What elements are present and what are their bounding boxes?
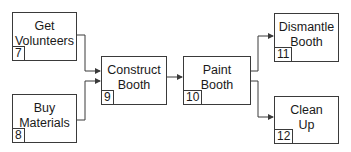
node-id-badge: 10: [183, 90, 202, 105]
edge-8-to-9: [76, 81, 100, 120]
node-id-badge: 12: [274, 129, 293, 144]
node-construct-booth: Construct Booth 9: [101, 56, 167, 105]
node-id-badge: 7: [12, 46, 25, 61]
node-id-badge: 9: [101, 90, 114, 105]
node-clean-up: Clean Up 12: [274, 96, 339, 144]
node-id-badge: 8: [12, 128, 25, 143]
node-buy-materials: Buy Materials 8: [12, 94, 77, 143]
edge-7-to-9: [76, 35, 100, 71]
node-label: Construct Booth: [102, 63, 166, 93]
node-paint-booth: Paint Booth 10: [183, 56, 251, 105]
node-label: Paint Booth: [184, 63, 250, 93]
node-get-volunteers: Get Volunteers 7: [12, 12, 77, 61]
edge-10-to-12: [250, 81, 273, 117]
node-id-badge: 11: [274, 47, 292, 62]
node-label: Get Volunteers: [13, 19, 76, 49]
edge-10-to-11: [250, 36, 273, 71]
node-label: Dismantle Booth: [275, 20, 338, 50]
node-label: Buy Materials: [13, 101, 76, 131]
node-dismantle-booth: Dismantle Booth 11: [274, 13, 339, 62]
